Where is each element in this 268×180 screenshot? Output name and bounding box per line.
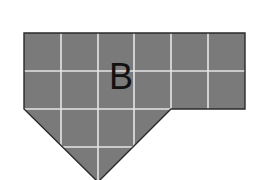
- shape-label: B: [109, 56, 133, 97]
- shape-diagram: B: [0, 0, 268, 180]
